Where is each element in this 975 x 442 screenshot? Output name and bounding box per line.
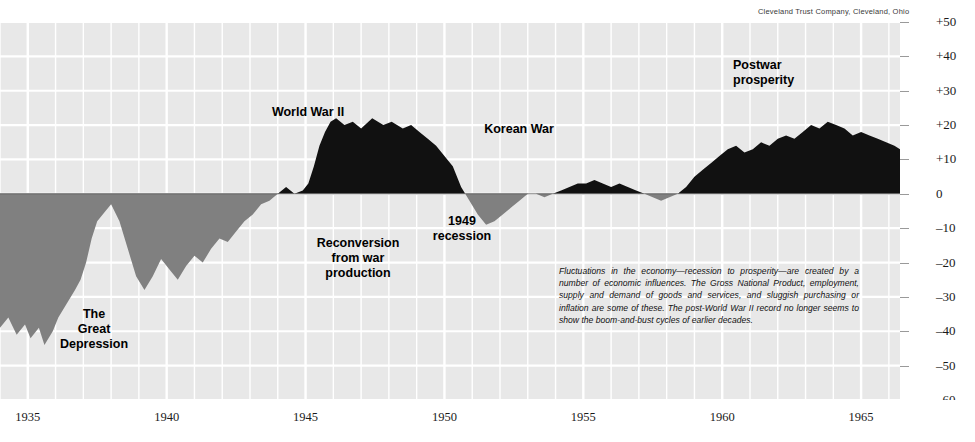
y-tick-label: +40 xyxy=(936,48,956,64)
y-tick-mark xyxy=(900,331,909,332)
y-axis: +50+40+30+20+100–10–20–30–40–50–60 xyxy=(900,22,975,400)
annotation-korean-war: Korean War xyxy=(484,122,554,137)
x-axis: 1935194019451950195519601965 xyxy=(0,400,975,442)
y-tick-label: –10 xyxy=(936,220,956,236)
y-tick-label: –20 xyxy=(936,255,956,271)
y-tick-label: +20 xyxy=(936,117,956,133)
y-tick-mark xyxy=(900,56,909,57)
x-tick-label: 1965 xyxy=(849,410,874,425)
y-tick-mark xyxy=(900,125,909,126)
y-tick-label: 0 xyxy=(936,186,943,202)
explanatory-note: Fluctuations in the economy—recession to… xyxy=(559,265,859,326)
x-tick-label: 1945 xyxy=(293,410,318,425)
y-tick-label: +10 xyxy=(936,151,956,167)
y-tick-label: –50 xyxy=(936,358,956,374)
y-tick-label: –40 xyxy=(936,323,956,339)
x-tick-label: 1950 xyxy=(432,410,457,425)
annotation-postwar-prosperity: Postwar prosperity xyxy=(733,58,794,88)
annotation-great-depression: The Great Depression xyxy=(60,307,128,351)
y-tick-label: +50 xyxy=(936,14,956,30)
y-tick-mark xyxy=(900,194,909,195)
annotation-recession-1949: 1949 recession xyxy=(433,214,491,244)
y-tick-mark xyxy=(900,22,909,23)
x-tick-label: 1935 xyxy=(15,410,40,425)
y-tick-label: –30 xyxy=(936,289,956,305)
y-tick-mark xyxy=(900,297,909,298)
annotation-world-war-ii: World War II xyxy=(272,105,344,120)
x-tick-label: 1955 xyxy=(571,410,596,425)
x-tick-label: 1940 xyxy=(154,410,179,425)
y-tick-mark xyxy=(900,91,909,92)
y-tick-mark xyxy=(900,366,909,367)
y-tick-mark xyxy=(900,228,909,229)
business-activity-chart: Cleveland Trust Company, Cleveland, Ohio… xyxy=(0,0,975,442)
y-tick-mark xyxy=(900,263,909,264)
x-tick-label: 1960 xyxy=(710,410,735,425)
y-tick-label: +30 xyxy=(936,83,956,99)
annotation-reconversion: Reconversion from war production xyxy=(317,236,400,280)
chart-credit: Cleveland Trust Company, Cleveland, Ohio xyxy=(758,7,909,16)
y-tick-mark xyxy=(900,159,909,160)
